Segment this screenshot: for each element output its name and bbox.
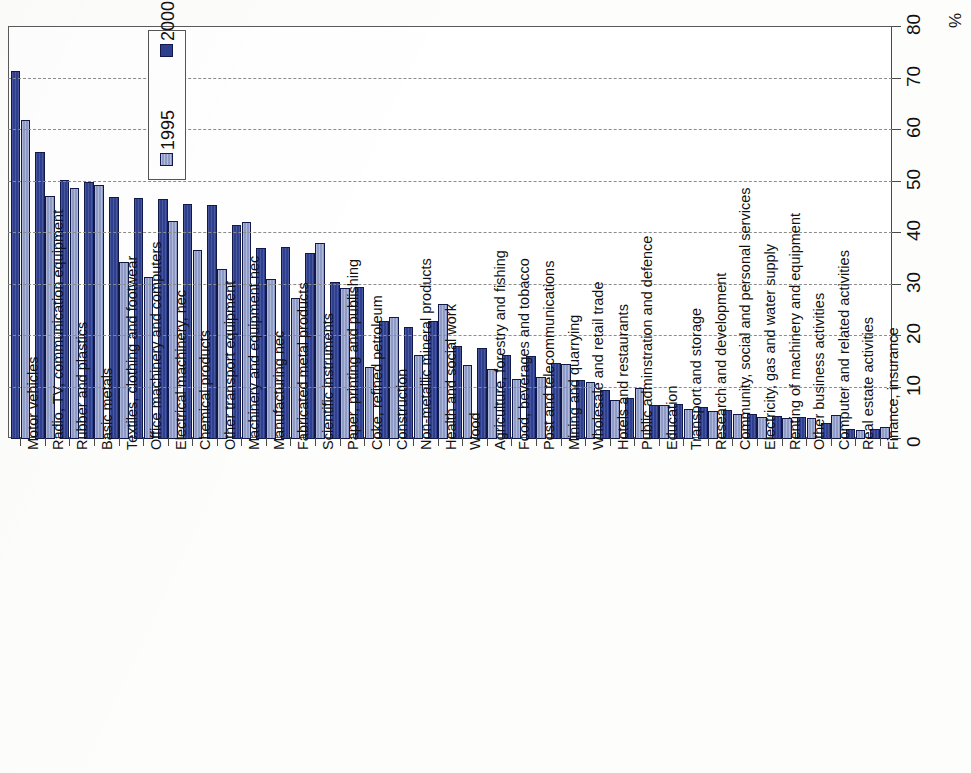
- category-axis-label: Non-metallic mineral products: [418, 258, 434, 450]
- category-axis-tick: [192, 438, 193, 446]
- category-axis-tick: [69, 438, 70, 446]
- category-axis-label: Computer and related activities: [836, 250, 852, 450]
- gridline: [8, 78, 892, 79]
- legend-swatch-2000: [160, 44, 173, 57]
- gridline: [8, 181, 892, 182]
- legend-label-2000: 2000: [158, 1, 179, 41]
- category-axis-tick: [340, 438, 341, 446]
- category-axis-label: Real estate activities: [860, 317, 876, 450]
- category-axis-tick: [806, 438, 807, 446]
- value-axis-label: 70: [903, 45, 925, 87]
- category-axis-label: Textiles, clothing and footwear: [124, 256, 140, 450]
- category-axis-tick: [462, 438, 463, 446]
- category-axis-label: Wholesale and retail trade: [590, 282, 606, 450]
- value-axis-label: 0: [903, 405, 925, 447]
- category-axis-tick: [241, 438, 242, 446]
- value-axis-tick: [892, 129, 901, 130]
- category-axis-label: Transport and storage: [688, 308, 704, 450]
- value-axis-tick: [892, 78, 901, 79]
- category-axis-label: Machinery and equipment nec: [246, 256, 262, 450]
- category-axis-tick: [831, 438, 832, 446]
- value-axis-label: 80: [903, 0, 925, 35]
- category-axis-label: Scientific instruments: [320, 313, 336, 450]
- category-axis-tick: [315, 438, 316, 446]
- bar-chart: 01020304050607080 Motor vehiclesRadio, T…: [0, 0, 971, 773]
- category-axis-label: Radio, TV, communication equipment: [50, 210, 66, 450]
- gridline: [8, 232, 892, 233]
- value-axis-label: 10: [903, 354, 925, 396]
- category-axis-label: Construction: [394, 369, 410, 450]
- category-axis-label: Other transport equipment: [222, 281, 238, 450]
- category-axis-tick: [708, 438, 709, 446]
- category-axis-tick: [782, 438, 783, 446]
- category-axis-label: Public adminstration and defence: [639, 236, 655, 450]
- legend-swatch-1995: [160, 153, 173, 166]
- category-axis-label: Basic metals: [99, 368, 115, 450]
- value-axis-tick: [892, 232, 901, 233]
- category-axis-label: Hotels and restaurants: [615, 304, 631, 450]
- category-axis-tick: [732, 438, 733, 446]
- value-axis-unit: %: [946, 13, 966, 28]
- category-axis-tick: [266, 438, 267, 446]
- category-axis-tick: [290, 438, 291, 446]
- gridline: [8, 284, 892, 285]
- category-axis-label: Wood: [467, 412, 483, 450]
- category-axis-tick: [585, 438, 586, 446]
- category-axis-tick: [438, 438, 439, 446]
- category-axis-label: Finance, insurance: [885, 327, 901, 450]
- value-axis-label: 50: [903, 148, 925, 190]
- category-axis-tick: [217, 438, 218, 446]
- category-axis-label: Electrical machinery, nec: [173, 290, 189, 450]
- category-axis-label: Post and telecommunications: [541, 261, 557, 450]
- chart-legend: 2000 1995: [148, 30, 186, 180]
- category-axis-label: Health and social work: [443, 304, 459, 450]
- value-axis-label: 40: [903, 199, 925, 241]
- category-axis-tick: [94, 438, 95, 446]
- category-axis-tick: [561, 438, 562, 446]
- category-axis-tick: [880, 438, 881, 446]
- category-axis-label: Research and development: [713, 273, 729, 450]
- category-axis-tick: [364, 438, 365, 446]
- category-axis-label: Fabricated metal products: [295, 282, 311, 450]
- value-axis-label: 30: [903, 251, 925, 293]
- category-axis-label: Chemical products: [197, 330, 213, 450]
- value-axis-label: 20: [903, 302, 925, 344]
- category-axis-tick: [659, 438, 660, 446]
- category-axis-tick: [389, 438, 390, 446]
- category-axis-tick: [413, 438, 414, 446]
- category-axis-label: Motor vehicles: [25, 357, 41, 450]
- category-axis-label: Food, beverages and tobacco: [516, 258, 532, 450]
- category-axis-tick: [168, 438, 169, 446]
- category-axis-tick: [683, 438, 684, 446]
- category-axis-label: Rubber and plastics: [74, 322, 90, 450]
- gridline: [8, 129, 892, 130]
- category-axis-tick: [855, 438, 856, 446]
- category-axis-tick: [757, 438, 758, 446]
- category-axis-tick: [511, 438, 512, 446]
- category-axis-label: Education: [664, 386, 680, 451]
- value-axis-tick: [892, 284, 901, 285]
- value-axis-tick: [892, 181, 901, 182]
- value-axis-label: 60: [903, 96, 925, 138]
- category-axis-tick: [487, 438, 488, 446]
- category-axis-label: Community, social and personal services: [737, 188, 753, 450]
- category-axis-tick: [45, 438, 46, 446]
- category-axis-label: Mining and quarrying: [566, 315, 582, 450]
- category-axis-tick: [119, 438, 120, 446]
- category-axis-tick: [536, 438, 537, 446]
- category-axis-label: Agriculture, forestry and fishing: [492, 250, 508, 450]
- category-axis-label: Paper, printing and publishing: [345, 259, 361, 450]
- category-axis-label: Manufacturing nec: [271, 331, 287, 450]
- category-axis-tick: [634, 438, 635, 446]
- category-axis-tick: [20, 438, 21, 446]
- category-axis-label: Coke, refined petroleum: [369, 295, 385, 450]
- legend-label-1995: 1995: [158, 110, 179, 150]
- category-axis-label: Electricity, gas and water supply: [762, 244, 778, 450]
- category-axis-label: Other business activities: [811, 293, 827, 450]
- category-axis-tick: [143, 438, 144, 446]
- category-axis-tick: [610, 438, 611, 446]
- bar-1995: [11, 71, 21, 439]
- value-axis-tick: [892, 26, 901, 27]
- category-axis-label: Renting of machinery and equipment: [787, 213, 803, 450]
- category-axis-label: Office machinery and computers: [148, 242, 164, 450]
